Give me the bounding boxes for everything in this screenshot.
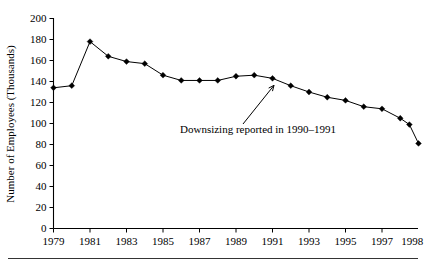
y-axis-title-label: Number of Employees (Thousands) — [4, 45, 17, 203]
x-tick-label: 1985 — [152, 235, 175, 247]
x-tick-label: 1998 — [401, 235, 424, 247]
y-tick-label: 200 — [30, 12, 47, 24]
y-tick-label: 180 — [30, 33, 47, 45]
annotation-label: Downsizing reported in 1990–1991 — [180, 123, 336, 135]
x-tick-label: 1981 — [79, 235, 101, 247]
y-tick-label: 120 — [30, 96, 47, 108]
y-tick-label: 40 — [36, 180, 48, 192]
y-tick-label: 0 — [41, 222, 47, 234]
y-tick-label: 100 — [30, 117, 47, 129]
x-tick-label: 1987 — [189, 235, 212, 247]
employees-line-chart: Number of Employees (Thousands) 02040608… — [0, 0, 426, 268]
chart-figure: Number of Employees (Thousands) 02040608… — [0, 0, 426, 268]
x-tick-label: 1979 — [43, 235, 66, 247]
y-tick-label: 80 — [36, 138, 48, 150]
y-tick-label: 140 — [30, 75, 47, 87]
x-tick-label: 1991 — [262, 235, 284, 247]
x-tick-label: 1993 — [298, 235, 321, 247]
y-tick-label: 20 — [36, 201, 48, 213]
x-tick-label: 1997 — [371, 235, 394, 247]
x-tick-label: 1995 — [335, 235, 358, 247]
y-axis-title: Number of Employees (Thousands) — [4, 45, 17, 203]
y-tick-label: 160 — [30, 54, 47, 66]
y-tick-label: 60 — [36, 159, 48, 171]
x-tick-label: 1983 — [116, 235, 139, 247]
x-tick-label: 1989 — [225, 235, 248, 247]
